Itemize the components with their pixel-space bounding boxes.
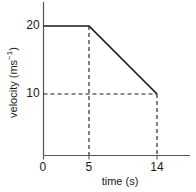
- y-axis-title: velocity (ms−1): [8, 31, 19, 135]
- y-tick-label-20: 20: [22, 19, 40, 31]
- x-axis-title: time (s): [60, 176, 180, 187]
- y-axis-title-exponent: −1: [5, 51, 14, 60]
- velocity-time-chart: 20 10 0 5 14 time (s) velocity (ms−1): [0, 0, 196, 192]
- velocity-data-line: [44, 26, 158, 94]
- y-tick-label-10: 10: [22, 87, 40, 99]
- y-axis-title-main: velocity (ms: [7, 60, 19, 118]
- y-axis-title-close: ): [7, 47, 19, 51]
- x-tick-label-0: 0: [36, 161, 50, 173]
- x-tick-label-14: 14: [147, 161, 167, 173]
- x-tick-label-5: 5: [82, 161, 96, 173]
